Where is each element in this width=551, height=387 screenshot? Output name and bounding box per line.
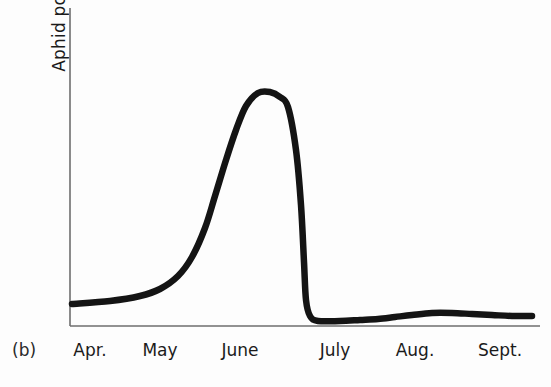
- figure-aphid-population: Aphid pop. (b) Apr. May June July Aug. S…: [0, 0, 551, 387]
- aphid-population-curve: [72, 91, 532, 321]
- plot-area: [0, 0, 551, 387]
